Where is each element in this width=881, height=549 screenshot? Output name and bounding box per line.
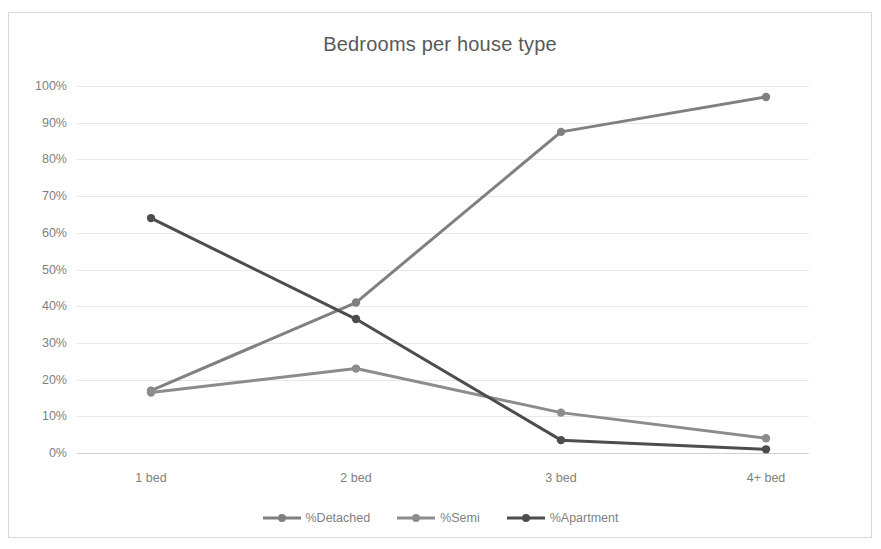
gridline: [77, 270, 809, 271]
data-point-marker: [352, 315, 360, 323]
legend-label: %Apartment: [550, 511, 619, 525]
y-axis-tick-label: 0%: [9, 446, 67, 460]
series-semi: [147, 364, 770, 442]
y-axis-tick-label: 90%: [9, 116, 67, 130]
legend-item-detached[interactable]: %Detached: [262, 511, 371, 525]
y-axis-tick-label: 20%: [9, 373, 67, 387]
data-point-marker: [762, 434, 770, 442]
x-axis-tick-label: 3 bed: [545, 471, 576, 485]
y-axis-tick-label: 50%: [9, 263, 67, 277]
gridline: [77, 306, 809, 307]
legend-label: %Detached: [306, 511, 371, 525]
data-point-marker: [352, 364, 360, 372]
gridline: [77, 380, 809, 381]
data-point-marker: [147, 386, 155, 394]
data-point-marker: [147, 388, 155, 396]
data-point-marker: [762, 93, 770, 101]
y-axis-tick-label: 100%: [9, 79, 67, 93]
y-axis-tick-label: 60%: [9, 226, 67, 240]
y-axis-tick-label: 30%: [9, 336, 67, 350]
legend-item-semi[interactable]: %Semi: [396, 511, 480, 525]
x-axis-tick-label: 2 bed: [340, 471, 371, 485]
legend-item-apartment[interactable]: %Apartment: [506, 511, 619, 525]
chart-container: Bedrooms per house type 100%90%80%70%60%…: [8, 12, 872, 538]
y-axis-tick-label: 80%: [9, 152, 67, 166]
y-axis-tick-label: 40%: [9, 299, 67, 313]
gridline: [77, 416, 809, 417]
legend-marker-icon: [262, 512, 302, 524]
data-point-marker: [557, 436, 565, 444]
series-line: [151, 97, 766, 391]
series-apartment: [147, 214, 770, 454]
gridline: [77, 123, 809, 124]
data-point-marker: [147, 214, 155, 222]
gridline: [77, 196, 809, 197]
series-line: [151, 218, 766, 449]
series-detached: [147, 93, 770, 395]
legend-marker-icon: [506, 512, 546, 524]
gridline: [77, 159, 809, 160]
x-axis-tick-label: 1 bed: [135, 471, 166, 485]
gridline: [77, 343, 809, 344]
y-axis-tick-label: 10%: [9, 409, 67, 423]
chart-legend: %Detached%Semi%Apartment: [9, 511, 871, 525]
y-axis-tick-label: 70%: [9, 189, 67, 203]
x-axis-line: [77, 453, 809, 454]
data-point-marker: [557, 128, 565, 136]
gridline: [77, 233, 809, 234]
legend-marker-icon: [396, 512, 436, 524]
legend-label: %Semi: [440, 511, 480, 525]
x-axis-tick-label: 4+ bed: [747, 471, 786, 485]
plot-area: 100%90%80%70%60%50%40%30%20%10%0% 1 bed2…: [9, 13, 871, 537]
series-lines-group: [9, 13, 881, 549]
gridline: [77, 86, 809, 87]
